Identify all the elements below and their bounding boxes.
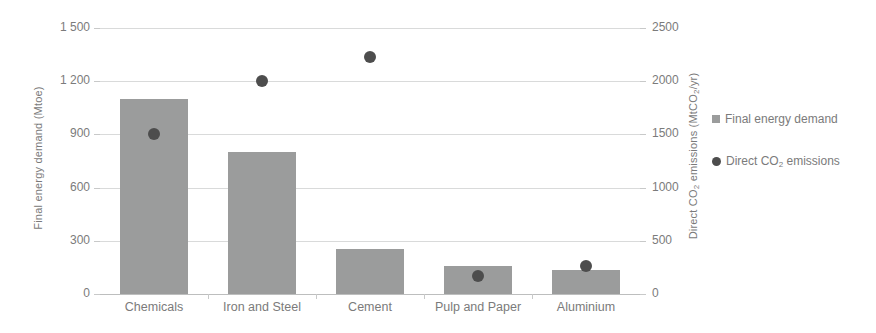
data-point [472,270,484,282]
y-axis-right-tick-label: 0 [652,286,702,300]
x-axis-category-label: Aluminium [532,300,640,314]
data-point [256,75,268,87]
legend-square-icon [712,115,720,123]
y-axis-right-tick-mark [640,188,646,189]
chart-screenshot: Final energy demand (Mtoe) Direct CO2 em… [0,0,876,333]
y-axis-right-tick-marks [640,28,646,294]
gridline [100,81,640,82]
x-axis-category-labels: ChemicalsIron and SteelCementPulp and Pa… [100,300,640,322]
x-axis-category-label: Cement [316,300,424,314]
x-axis-tick-mark [316,294,317,299]
y-axis-right-tick-label: 1500 [652,126,702,140]
bar [336,249,404,294]
y-axis-left-tick-label: 300 [40,233,90,247]
y-axis-right-tick-label: 1000 [652,180,702,194]
y-axis-right-tick-mark [640,241,646,242]
y-axis-left-tick-label: 600 [40,180,90,194]
y-axis-right-tick-mark [640,294,646,295]
x-axis-tick-mark [424,294,425,299]
y-axis-right-ticks: 25002000150010005000 [652,28,702,294]
gridline [100,28,640,29]
x-axis-tick-mark [208,294,209,299]
chart-legend: Final energy demandDirect CO2 emissions [712,112,876,196]
y-axis-right-tick-mark [640,28,646,29]
y-axis-right-tick-label: 2500 [652,20,702,34]
y-axis-right-tick-mark [640,134,646,135]
x-axis-category-label: Iron and Steel [208,300,316,314]
y-axis-left-tick-label: 900 [40,126,90,140]
y-axis-right-tick-label: 500 [652,233,702,247]
y-axis-right-tick-label: 2000 [652,73,702,87]
bar [228,152,296,294]
legend-dot-icon [712,157,721,166]
data-point [364,51,376,63]
y-axis-left-tick-label: 1 200 [40,73,90,87]
y-axis-left-tick-label: 1 500 [40,20,90,34]
x-axis-tick-mark [532,294,533,299]
y-axis-left-ticks: 1 5001 2009006003000 [40,28,90,294]
bar [552,270,620,294]
plot-area [100,28,640,294]
y-axis-left-tick-label: 0 [40,286,90,300]
legend-item[interactable]: Final energy demand [712,112,876,126]
x-axis-category-label: Pulp and Paper [424,300,532,314]
legend-item-label: Final energy demand [725,112,838,126]
y-axis-right-tick-mark [640,81,646,82]
x-axis-category-label: Chemicals [100,300,208,314]
legend-item[interactable]: Direct CO2 emissions [712,154,876,168]
legend-item-label: Direct CO2 emissions [726,154,840,168]
x-axis-baseline [100,294,640,295]
